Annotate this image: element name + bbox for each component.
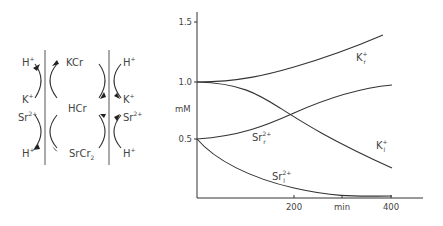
right-bottom-arc-b bbox=[114, 115, 121, 148]
label-srcr2: SrCr2 bbox=[69, 148, 95, 161]
left-bottom-arc-a bbox=[35, 115, 41, 148]
figure: H+ K+ Sr2+ H+ KCr HCr SrCr2 H+ K+ Sr2+ H… bbox=[0, 0, 443, 226]
right-bottom-arc-a bbox=[99, 115, 105, 148]
label-kcr: KCr bbox=[66, 57, 84, 68]
y-tick-label: 1.5 bbox=[178, 17, 192, 27]
label-sr-left: Sr2+ bbox=[18, 110, 37, 123]
x-tick-label: 400 bbox=[383, 202, 399, 212]
y-axis-label: mM bbox=[175, 104, 191, 114]
label-h-left-bottom: H+ bbox=[22, 146, 35, 159]
label-h-right-bottom: H+ bbox=[123, 146, 136, 159]
series-label-k-l: K+l bbox=[376, 138, 388, 153]
arrow-icon bbox=[52, 146, 58, 152]
right-top-arc-b bbox=[114, 64, 121, 98]
series-k-l bbox=[197, 82, 392, 168]
x-axis-label: min bbox=[334, 202, 350, 212]
label-sr-right: Sr2+ bbox=[123, 110, 142, 123]
series-sr-l bbox=[197, 139, 392, 196]
series-label-k-r: K+r bbox=[356, 50, 368, 65]
y-tick-label: 1.0 bbox=[178, 77, 192, 87]
label-k-left: K+ bbox=[22, 92, 34, 105]
y-tick-label: 0.5 bbox=[178, 134, 192, 144]
series-label-sr-l: Sr2+l bbox=[272, 169, 291, 184]
label-k-right: K+ bbox=[123, 92, 135, 105]
label-h-left-top: H+ bbox=[22, 55, 35, 68]
x-tick-label: 200 bbox=[286, 202, 302, 212]
transport-scheme: H+ K+ Sr2+ H+ KCr HCr SrCr2 H+ K+ Sr2+ H… bbox=[18, 50, 142, 165]
label-hcr: HCr bbox=[68, 103, 88, 114]
left-top-arc-b bbox=[50, 64, 57, 98]
series-label-sr-r: Sr2+r bbox=[252, 130, 271, 145]
chart: 1.5 1.0 0.5 mM 200 400 min K+r K+l Sr2+r… bbox=[175, 12, 423, 212]
left-bottom-arc-b bbox=[50, 115, 57, 148]
label-h-right-top: H+ bbox=[123, 55, 136, 68]
series-sr-r bbox=[197, 85, 392, 139]
